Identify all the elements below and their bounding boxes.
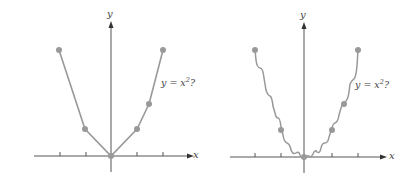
right-equation-label: y = x2? [355,80,389,90]
eq-exponent: 2 [380,78,384,86]
left-y-axis-label: y [107,9,113,19]
eq-tail: ? [190,77,195,88]
eq-base: y = x [355,79,380,90]
eq-tail: ? [384,79,389,90]
left-x-axis-label: x [193,150,199,160]
y-axis-arrow-icon [109,21,114,28]
left-equation-label: y = x2? [161,78,195,88]
right-y-axis-label: y [300,10,306,20]
data-points [252,47,361,160]
eq-exponent: 2 [186,76,190,84]
chart-canvas [0,0,415,180]
eq-base: y = x [161,77,186,88]
right-chart [230,22,387,173]
right-x-axis-label: x [389,151,395,161]
y-axis-arrow-icon [302,22,307,29]
x-axis-arrow-icon [380,155,387,160]
left-chart [34,21,194,172]
